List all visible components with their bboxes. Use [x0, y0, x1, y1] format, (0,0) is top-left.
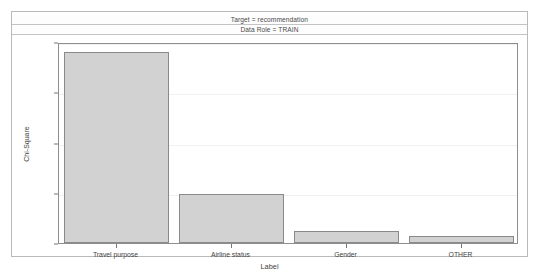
x-tick-mark [461, 244, 462, 248]
bar [179, 194, 285, 243]
x-tick-mark [231, 244, 232, 248]
bar [409, 236, 515, 243]
x-tick-mark [346, 244, 347, 248]
x-tick-label: Gender [334, 251, 357, 258]
bar [64, 52, 170, 243]
x-axis-title: Label [12, 262, 527, 271]
x-tick-label: Airline status [211, 251, 250, 258]
bar [294, 231, 400, 243]
gridline [59, 44, 517, 45]
target-header-band: Target = recommendation [12, 15, 527, 25]
x-tick-label: OTHER [449, 251, 473, 258]
data-role-header-band: Data Role = TRAIN [12, 25, 527, 35]
chart-panel: Target = recommendation Data Role = TRAI… [11, 11, 528, 257]
x-tick-mark [116, 244, 117, 248]
plot-area [58, 43, 518, 244]
x-tick-label: Travel purpose [93, 251, 138, 258]
